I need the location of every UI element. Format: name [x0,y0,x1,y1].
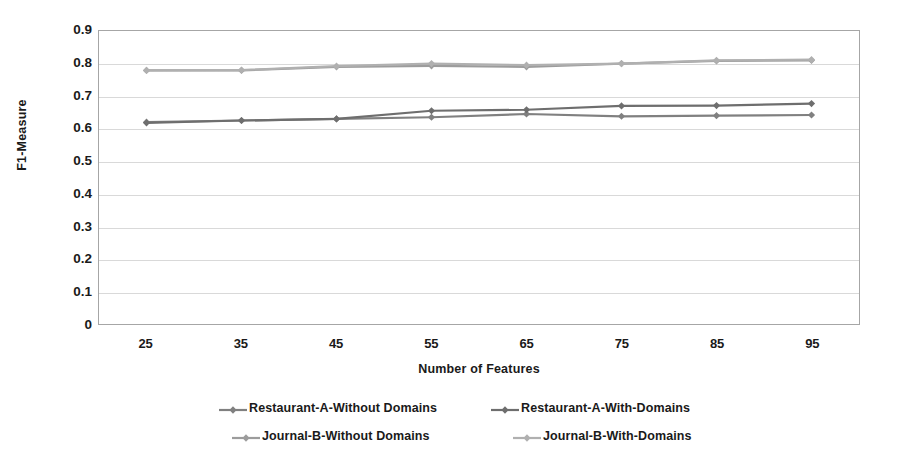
legend-item-label: Journal-B-Without Domains [262,429,430,443]
y-axis-title: F1-Measure [15,75,29,195]
y-axis-tick-label: 0.1 [46,285,92,299]
y-axis-tick-label: 0.4 [46,187,92,201]
series-marker [143,119,150,126]
legend-marker-icon [512,430,542,442]
series-marker [713,102,720,109]
y-axis-tick-label: 0.3 [46,220,92,234]
plot-area [98,30,860,325]
series-marker [333,63,340,70]
legend-item-label: Restaurant-A-With-Domains [521,401,690,415]
legend-item-label: Journal-B-With-Domains [543,429,692,443]
data-series [143,100,815,126]
y-axis-tick-label: 0 [46,318,92,332]
series-marker [428,114,435,121]
data-series [143,56,815,74]
x-axis-tick-label: 45 [306,336,366,351]
series-marker [808,56,815,63]
legend-item-journal-b-without-domains[interactable]: Journal-B-Without Domains [218,429,490,443]
x-axis-tick-label: 25 [116,336,176,351]
series-marker [143,67,150,74]
series-marker [618,113,625,120]
y-axis-tick-label: 0.6 [46,121,92,135]
data-series-layer [99,31,859,324]
series-marker [808,100,815,107]
y-axis-tick-label: 0.7 [46,89,92,103]
y-axis-tick-label: 0.5 [46,154,92,168]
legend-marker-icon [490,402,520,414]
series-marker [238,117,245,124]
y-axis-tick-labels: 00.10.20.30.40.50.60.70.80.9 [44,0,92,470]
series-marker [333,115,340,122]
x-axis-tick-label: 65 [497,336,557,351]
x-axis-tick-label: 85 [687,336,747,351]
x-axis-tick-label: 95 [782,336,842,351]
legend-item-journal-b-with-domains[interactable]: Journal-B-With-Domains [490,429,740,443]
x-axis-tick-label: 35 [211,336,271,351]
series-marker [618,102,625,109]
legend-row: Restaurant-A-Without Domains Restaurant-… [98,394,860,422]
line-chart: F1-Measure 00.10.20.30.40.50.60.70.80.9 … [0,0,907,470]
series-line [147,60,812,71]
y-axis-tick-label: 0.8 [46,56,92,70]
legend-marker-icon [218,402,248,414]
series-line [147,104,812,123]
series-marker [238,66,245,73]
series-marker [808,111,815,118]
series-marker [428,107,435,114]
series-marker [523,106,530,113]
legend-marker-icon [231,430,261,442]
x-axis-tick-label: 55 [401,336,461,351]
legend-item-restaurant-a-without-domains[interactable]: Restaurant-A-Without Domains [218,401,490,415]
legend-item-label: Restaurant-A-Without Domains [249,401,437,415]
series-marker [713,112,720,119]
data-series [143,110,815,125]
y-axis-tick-label: 0.2 [46,252,92,266]
series-marker [713,57,720,64]
chart-legend: Restaurant-A-Without Domains Restaurant-… [98,394,860,450]
series-marker [618,60,625,67]
x-axis-tick-label: 75 [592,336,652,351]
legend-row: Journal-B-Without Domains Journal-B-With… [98,422,860,450]
x-axis-title: Number of Features [98,362,860,376]
legend-item-restaurant-a-with-domains[interactable]: Restaurant-A-With-Domains [490,401,740,415]
y-axis-tick-label: 0.9 [46,23,92,37]
